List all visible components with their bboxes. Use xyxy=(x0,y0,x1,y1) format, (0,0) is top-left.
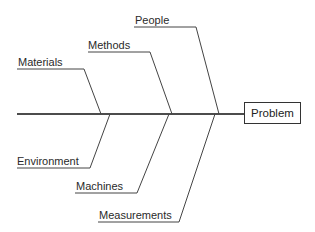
cause-label-methods: Methods xyxy=(88,39,130,51)
cause-label-measurements: Measurements xyxy=(99,209,172,221)
problem-label: Problem xyxy=(251,107,294,119)
cause-label-people: People xyxy=(135,14,169,26)
branch-methods xyxy=(88,52,172,114)
branch-people xyxy=(134,27,219,114)
branch-materials xyxy=(17,69,101,114)
cause-label-materials: Materials xyxy=(18,56,63,68)
branch-measurements xyxy=(98,114,215,222)
cause-label-environment: Environment xyxy=(17,155,79,167)
problem-box: Problem xyxy=(244,102,301,124)
cause-label-machines: Machines xyxy=(76,180,123,192)
